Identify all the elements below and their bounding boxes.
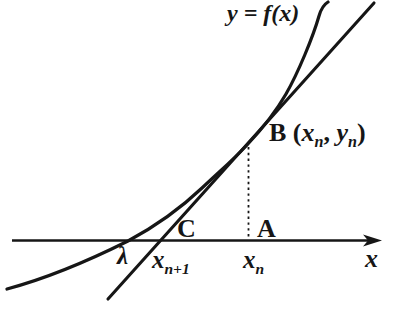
- point-b-x: x: [302, 118, 315, 147]
- x-n-label: xn: [243, 247, 264, 272]
- x-n-plus-1-base: x: [152, 246, 165, 273]
- lambda-label: λ: [117, 243, 128, 268]
- point-b-label: B (xn, yn): [269, 120, 366, 146]
- x-n-plus-1-sub: n+1: [165, 260, 190, 277]
- figure-canvas: [0, 0, 398, 314]
- x-n-plus-1-label: xn+1: [152, 247, 190, 272]
- point-b-name: B: [269, 118, 286, 147]
- point-a-label: A: [257, 216, 276, 242]
- point-b-y: y: [336, 118, 348, 147]
- point-b-open: (: [293, 118, 302, 147]
- x-axis-label: x: [365, 246, 378, 272]
- point-b-y-sub: n: [348, 133, 357, 150]
- point-c-label: C: [177, 216, 196, 242]
- curve-label: y = f(x): [227, 1, 299, 25]
- newton-method-figure: y = f(x) B (xn, yn) C A λ xn+1 xn x: [0, 0, 398, 314]
- point-b-sep: ,: [323, 118, 336, 147]
- x-n-base: x: [243, 246, 256, 273]
- point-b-close: ): [357, 118, 366, 147]
- x-n-sub: n: [256, 260, 265, 277]
